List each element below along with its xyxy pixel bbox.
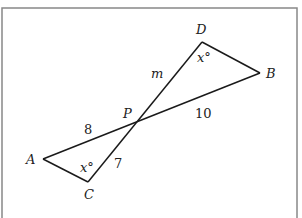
label-C: C (84, 187, 94, 202)
diagram-canvas: D B A C P m 10 8 7 x° x° (0, 0, 302, 218)
label-B: B (265, 66, 276, 81)
label-P: P (122, 106, 132, 121)
length-PB: 10 (195, 106, 212, 121)
geometry-figure: D B A C P m 10 8 7 x° x° (0, 0, 302, 218)
label-D: D (195, 22, 207, 37)
length-AP: 8 (84, 122, 92, 137)
frame-border (2, 8, 297, 218)
label-A: A (25, 152, 35, 167)
length-PC: 7 (114, 156, 122, 171)
label-line-m: m (151, 66, 163, 81)
segment-CD (88, 42, 202, 182)
segment-AB (43, 73, 260, 159)
angle-C-label: x° (80, 160, 94, 175)
angle-D-label: x° (197, 50, 211, 65)
